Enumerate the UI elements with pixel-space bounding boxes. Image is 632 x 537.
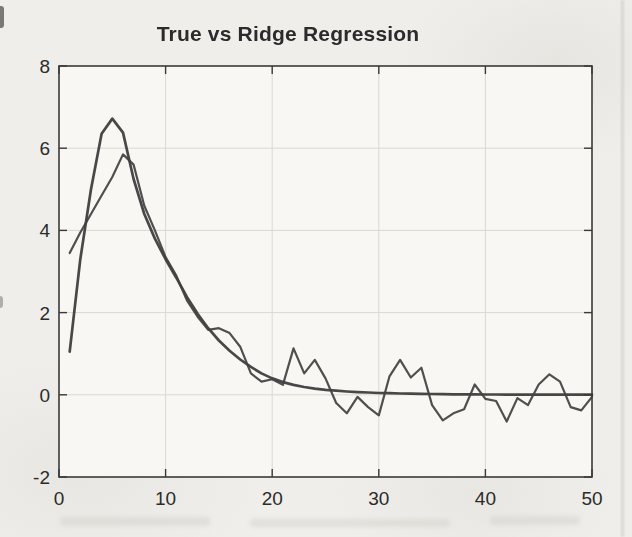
x-tick-label: 20 [262, 488, 283, 509]
y-tick-label: -2 [33, 467, 50, 488]
y-tick-label: 4 [39, 220, 50, 241]
scan-artifact [621, 0, 624, 537]
y-tick-label: 8 [39, 56, 50, 77]
x-tick-label: 40 [475, 488, 496, 509]
plot-background [59, 66, 592, 477]
x-tick-label: 10 [155, 488, 176, 509]
y-tick-label: 2 [39, 303, 50, 324]
scan-artifact [0, 6, 4, 28]
x-tick-label: 30 [368, 488, 389, 509]
y-tick-label: 6 [39, 138, 50, 159]
scan-artifact [250, 519, 450, 527]
scan-artifact [60, 517, 210, 526]
x-tick-label: 50 [581, 488, 602, 509]
x-tick-label: 0 [54, 488, 65, 509]
scanned-textbook-figure: True vs Ridge Regression 01020304050-202… [0, 0, 632, 537]
scan-artifact [0, 296, 3, 308]
plot-area: 01020304050-202468 [0, 0, 632, 537]
scan-artifact [490, 516, 580, 525]
y-tick-label: 0 [39, 385, 50, 406]
